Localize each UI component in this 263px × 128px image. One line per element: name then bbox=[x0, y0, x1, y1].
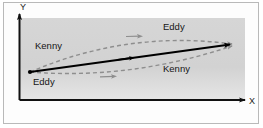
x-axis-label: X bbox=[249, 97, 255, 106]
label-kenny-right: Kenny bbox=[163, 64, 190, 74]
diagram-canvas bbox=[0, 0, 263, 128]
diagram-root: Y X Kenny Eddy Eddy Kenny bbox=[0, 0, 263, 128]
label-eddy-right: Eddy bbox=[163, 22, 185, 32]
origin-node bbox=[28, 70, 32, 74]
y-axis-label: Y bbox=[20, 3, 26, 12]
label-kenny-left: Kenny bbox=[35, 41, 62, 51]
label-eddy-left: Eddy bbox=[33, 77, 55, 87]
